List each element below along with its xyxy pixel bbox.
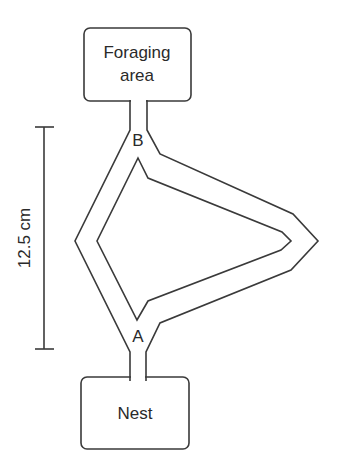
nest-gap xyxy=(131,372,145,380)
nest-box: Nest xyxy=(81,372,189,449)
nest-label: Nest xyxy=(118,404,153,423)
foraging-label-line1: Foraging xyxy=(103,43,170,62)
scale-bar: 12.5 cm xyxy=(15,127,54,349)
maze-diagram: 12.5 cm Foraging area Nest B A xyxy=(0,0,340,474)
junction-b-label: B xyxy=(132,131,143,150)
outer-right-wall xyxy=(146,100,318,381)
foraging-area-rect xyxy=(84,28,191,101)
foraging-label-line2: area xyxy=(120,66,155,85)
foraging-area-box: Foraging area xyxy=(84,28,191,104)
foraging-gap xyxy=(131,96,146,104)
inner-island xyxy=(97,158,291,320)
maze-tunnels xyxy=(75,100,318,381)
junction-a-label: A xyxy=(132,327,144,346)
outer-left-wall xyxy=(75,100,130,381)
scale-bar-label: 12.5 cm xyxy=(15,208,34,268)
